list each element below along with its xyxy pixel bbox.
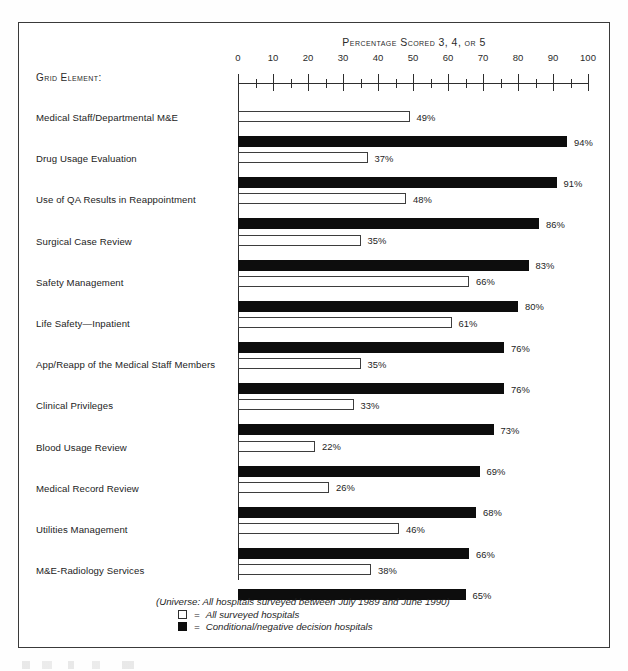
bar-solid bbox=[238, 383, 504, 394]
bar-solid bbox=[238, 136, 567, 147]
category-label: Safety Management bbox=[36, 277, 124, 288]
bar-value-label: 83% bbox=[536, 260, 555, 271]
x-axis-major-tick-90 bbox=[553, 74, 554, 91]
x-axis-minor-tick-85 bbox=[536, 79, 537, 88]
bar-value-label: 73% bbox=[501, 425, 520, 436]
bar-value-label: 94% bbox=[574, 137, 593, 148]
legend-swatch-solid-icon bbox=[178, 622, 187, 631]
bar-open bbox=[238, 564, 371, 575]
x-axis-minor-tick-65 bbox=[466, 79, 467, 88]
bar-value-label: 48% bbox=[413, 194, 432, 205]
bar-value-label: 35% bbox=[368, 235, 387, 246]
bar-value-label: 38% bbox=[378, 565, 397, 576]
bar-solid bbox=[238, 466, 480, 477]
category-label: Surgical Case Review bbox=[36, 236, 132, 247]
bar-solid bbox=[238, 218, 539, 229]
bar-solid bbox=[238, 342, 504, 353]
x-axis-minor-tick-5 bbox=[256, 79, 257, 88]
bar-solid bbox=[238, 177, 557, 188]
bar-solid bbox=[238, 507, 476, 518]
bar-solid bbox=[238, 548, 469, 559]
bar-value-label: 66% bbox=[476, 276, 495, 287]
x-axis-minor-tick-75 bbox=[501, 79, 502, 88]
bar-value-label: 46% bbox=[406, 524, 425, 535]
legend-label-all-surveyed: All surveyed hospitals bbox=[206, 609, 300, 620]
x-axis-minor-tick-35 bbox=[361, 79, 362, 88]
x-axis-major-tick-80 bbox=[518, 74, 519, 91]
bar-open bbox=[238, 317, 452, 328]
category-label: Clinical Privileges bbox=[36, 400, 113, 411]
category-label: Use of QA Results in Reappointment bbox=[36, 194, 196, 205]
category-label: Life Safety—Inpatient bbox=[36, 318, 130, 329]
bar-value-label: 76% bbox=[511, 343, 530, 354]
bar-value-label: 66% bbox=[476, 549, 495, 560]
category-label: Blood Usage Review bbox=[36, 442, 127, 453]
x-axis-major-tick-70 bbox=[483, 74, 484, 91]
category-label: Drug Usage Evaluation bbox=[36, 153, 137, 164]
x-axis-minor-tick-15 bbox=[291, 79, 292, 88]
x-axis-major-tick-60 bbox=[448, 74, 449, 91]
bar-value-label: 76% bbox=[511, 384, 530, 395]
bar-value-label: 91% bbox=[564, 178, 583, 189]
legend-label-conditional-negative: Conditional/negative decision hospitals bbox=[206, 621, 373, 632]
bar-open bbox=[238, 235, 361, 246]
bar-value-label: 61% bbox=[459, 318, 478, 329]
x-axis-major-tick-10 bbox=[273, 74, 274, 91]
figure-page: Percentage Scored 3, 4, or 5 Grid Elemen… bbox=[0, 0, 628, 671]
category-label: Medical Staff/Departmental M&E bbox=[36, 112, 178, 123]
x-axis-major-tick-30 bbox=[343, 74, 344, 91]
bar-open bbox=[238, 399, 354, 410]
bar-value-label: 68% bbox=[483, 507, 502, 518]
x-axis-major-tick-100 bbox=[588, 74, 589, 91]
cut-off-caption-remnant bbox=[22, 661, 322, 669]
x-axis-major-tick-0 bbox=[238, 74, 239, 91]
category-label: Medical Record Review bbox=[36, 483, 139, 494]
legend-equals-sign: = bbox=[194, 621, 200, 632]
x-axis-major-tick-50 bbox=[413, 74, 414, 91]
bar-value-label: 37% bbox=[375, 153, 394, 164]
category-label: M&E-Radiology Services bbox=[36, 565, 144, 576]
legend-universe-note: (Universe: All hospitals surveyed betwee… bbox=[156, 596, 576, 607]
x-axis-major-tick-20 bbox=[308, 74, 309, 91]
bar-solid bbox=[238, 260, 529, 271]
bar-open bbox=[238, 276, 469, 287]
bar-value-label: 49% bbox=[417, 112, 436, 123]
legend: (Universe: All hospitals surveyed betwee… bbox=[156, 596, 576, 632]
bar-open bbox=[238, 111, 410, 122]
bar-open bbox=[238, 441, 315, 452]
category-label: Utilities Management bbox=[36, 524, 128, 535]
x-axis-minor-tick-95 bbox=[571, 79, 572, 88]
x-axis-minor-tick-25 bbox=[326, 79, 327, 88]
bar-open bbox=[238, 193, 406, 204]
bar-value-label: 26% bbox=[336, 482, 355, 493]
bar-open bbox=[238, 152, 368, 163]
legend-equals-sign: = bbox=[194, 609, 200, 620]
bar-open bbox=[238, 358, 361, 369]
legend-item-conditional-negative: = Conditional/negative decision hospital… bbox=[178, 621, 576, 632]
bar-value-label: 22% bbox=[322, 441, 341, 452]
legend-item-all-surveyed: = All surveyed hospitals bbox=[178, 609, 576, 620]
bar-rows: Medical Staff/Departmental M&E49%94%Drug… bbox=[0, 0, 628, 671]
legend-swatch-open-icon bbox=[178, 610, 187, 619]
x-axis-minor-tick-45 bbox=[396, 79, 397, 88]
bar-value-label: 69% bbox=[487, 466, 506, 477]
bar-open bbox=[238, 482, 329, 493]
bar-value-label: 33% bbox=[361, 400, 380, 411]
x-axis-minor-tick-55 bbox=[431, 79, 432, 88]
category-label: App/Reapp of the Medical Staff Members bbox=[36, 359, 215, 370]
bar-value-label: 35% bbox=[368, 359, 387, 370]
bar-solid bbox=[238, 424, 494, 435]
bar-value-label: 86% bbox=[546, 219, 565, 230]
x-axis-major-tick-40 bbox=[378, 74, 379, 91]
bar-value-label: 80% bbox=[525, 301, 544, 312]
bar-open bbox=[238, 523, 399, 534]
bar-solid bbox=[238, 301, 518, 312]
